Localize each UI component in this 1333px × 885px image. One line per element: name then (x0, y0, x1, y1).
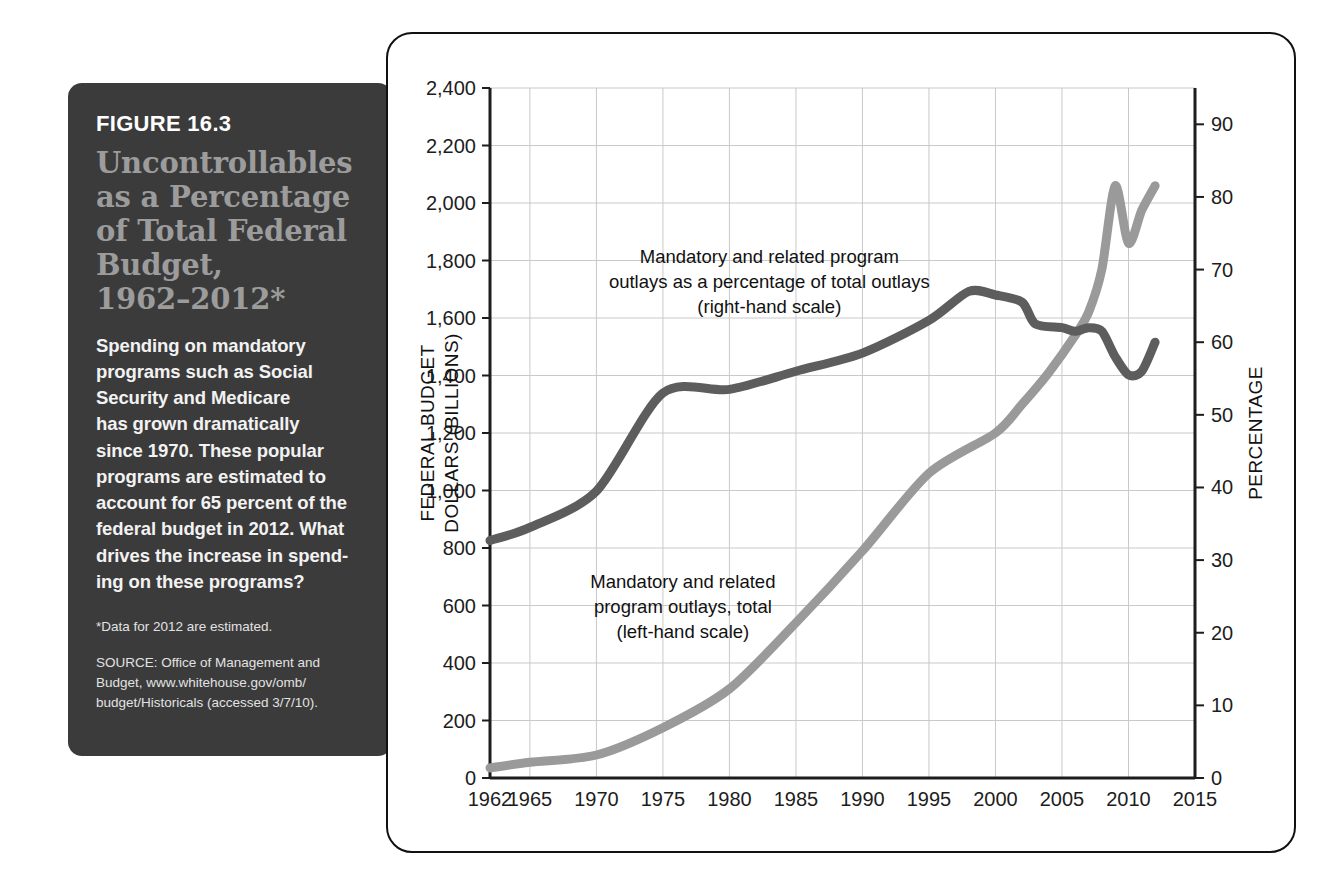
y-tick-label-right: 90 (1211, 113, 1233, 135)
line-chart: 02004006008001,0001,2001,4001,6001,8002,… (400, 45, 1285, 835)
y-axis-title-left: FEDERAL BUDGET (417, 345, 438, 522)
y-tick-label-right: 20 (1211, 622, 1233, 644)
y-tick-label-left: 2,200 (426, 135, 476, 157)
y-tick-label-right: 10 (1211, 694, 1233, 716)
y-tick-label-left: 200 (443, 710, 476, 732)
figure-source: SOURCE: Office of Management and Budget,… (96, 653, 366, 714)
y-tick-label-right: 60 (1211, 331, 1233, 353)
x-tick-label: 1970 (574, 788, 619, 810)
x-tick-label: 1985 (774, 788, 819, 810)
y-tick-label-right: 70 (1211, 259, 1233, 281)
y-tick-label-right: 50 (1211, 404, 1233, 426)
x-tick-label: 2000 (973, 788, 1018, 810)
y-tick-label-left: 800 (443, 537, 476, 559)
figure-description: Spending on mandatory programs such as S… (96, 333, 366, 596)
y-axis-title-right: PERCENTAGE (1245, 366, 1266, 500)
y-tick-label-right: 30 (1211, 549, 1233, 571)
y-tick-label-right: 80 (1211, 186, 1233, 208)
x-tick-label: 1962 (468, 788, 513, 810)
y-tick-label-left: 600 (443, 595, 476, 617)
figure-16-3: FIGURE 16.3 Uncontrollables as a Percent… (0, 0, 1333, 885)
chart-root: 02004006008001,0001,2001,4001,6001,8002,… (417, 77, 1266, 810)
annotation-line: outlays as a percentage of total outlays (609, 271, 930, 292)
annotation-line: Mandatory and related (590, 571, 775, 592)
annotation-line: (left-hand scale) (617, 621, 750, 642)
y-tick-label-left: 2,000 (426, 192, 476, 214)
y-tick-label-right: 0 (1211, 767, 1222, 789)
total-series-label: Mandatory and relatedprogram outlays, to… (590, 571, 775, 642)
x-tick-label: 1965 (508, 788, 553, 810)
y-tick-label-right: 40 (1211, 476, 1233, 498)
annotation-line: program outlays, total (594, 596, 772, 617)
series-line-percentage (490, 290, 1155, 540)
y-tick-label-left: 1,600 (426, 307, 476, 329)
gridlines (490, 88, 1195, 778)
y-axis-right-labels: 0102030405060708090 (1195, 113, 1233, 789)
x-tick-label: 1975 (641, 788, 686, 810)
x-tick-label: 1995 (907, 788, 952, 810)
figure-caption-panel: FIGURE 16.3 Uncontrollables as a Percent… (68, 83, 392, 756)
x-tick-label: 2010 (1106, 788, 1151, 810)
x-axis-labels: 1962196519701975198019851990199520002005… (468, 788, 1218, 810)
annotation-line: Mandatory and related program (640, 246, 899, 267)
x-tick-label: 1990 (840, 788, 885, 810)
x-tick-label: 2005 (1040, 788, 1085, 810)
figure-footnote: *Data for 2012 are estimated. (96, 617, 366, 637)
x-tick-label: 2015 (1173, 788, 1218, 810)
y-tick-label-left: 0 (465, 767, 476, 789)
annotation-line: (right-hand scale) (697, 296, 841, 317)
y-tick-label-left: 400 (443, 652, 476, 674)
figure-title: Uncontrollables as a Percentage of Total… (96, 147, 366, 317)
y-axis-title-left-line2: DOLLARS (BILLIONS) (441, 333, 462, 532)
y-tick-label-left: 2,400 (426, 77, 476, 99)
chart-area: 02004006008001,0001,2001,4001,6001,8002,… (400, 45, 1285, 835)
x-tick-label: 1980 (707, 788, 752, 810)
percentage-series-label: Mandatory and related programoutlays as … (609, 246, 930, 317)
figure-number: FIGURE 16.3 (96, 111, 366, 137)
y-tick-label-left: 1,800 (426, 250, 476, 272)
